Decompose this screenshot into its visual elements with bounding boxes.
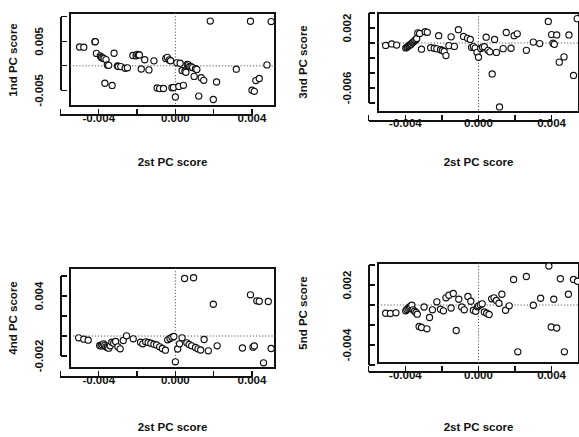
data-point bbox=[429, 307, 435, 313]
scatter-panel-bottom-right: -0.0040.0000.0040.002-0.0042st PC score5… bbox=[290, 250, 579, 437]
data-point bbox=[434, 299, 440, 305]
data-point bbox=[530, 39, 536, 45]
data-point bbox=[142, 57, 148, 63]
data-point bbox=[455, 27, 461, 33]
data-point bbox=[172, 359, 178, 365]
data-point bbox=[546, 263, 552, 269]
data-point bbox=[171, 333, 177, 339]
y-tick-label: -0.005 bbox=[33, 73, 45, 106]
data-point bbox=[456, 296, 462, 302]
data-point bbox=[483, 34, 489, 40]
plot-area: -0.0040.0000.0040.002-0.0042st PC score5… bbox=[290, 250, 579, 437]
data-point bbox=[443, 53, 449, 59]
x-tick-label: 0.000 bbox=[161, 374, 190, 386]
data-point bbox=[500, 46, 506, 52]
data-point bbox=[198, 347, 204, 353]
data-point bbox=[265, 298, 271, 304]
y-tick-label: 0.002 bbox=[341, 14, 353, 43]
data-point bbox=[247, 292, 253, 298]
scatter-panel-top-left: -0.0040.0000.0040.005-0.0052st PC score1… bbox=[0, 0, 290, 218]
data-point bbox=[268, 18, 274, 24]
x-axis-title: 2st PC score bbox=[444, 421, 514, 433]
x-tick-label: 0.004 bbox=[238, 112, 267, 124]
data-point bbox=[247, 18, 253, 24]
x-tick-label: -0.004 bbox=[389, 369, 422, 381]
data-point bbox=[561, 54, 567, 60]
data-point bbox=[450, 290, 456, 296]
data-point bbox=[565, 291, 571, 297]
data-point bbox=[491, 36, 497, 42]
y-tick-label: 0.005 bbox=[33, 26, 45, 55]
data-point bbox=[264, 62, 270, 68]
data-point bbox=[180, 82, 186, 88]
data-point bbox=[493, 49, 499, 55]
data-point bbox=[448, 34, 454, 40]
data-point bbox=[499, 291, 505, 297]
data-point bbox=[106, 62, 112, 68]
data-point bbox=[138, 66, 144, 72]
data-point bbox=[394, 42, 400, 48]
y-axis-title: 3nd PC score bbox=[297, 25, 309, 99]
data-point bbox=[177, 60, 183, 66]
data-point bbox=[196, 93, 202, 99]
data-point bbox=[201, 77, 207, 83]
x-tick-label: 0.004 bbox=[537, 117, 566, 129]
data-point bbox=[194, 66, 200, 72]
data-point bbox=[551, 41, 557, 47]
data-point bbox=[201, 336, 207, 342]
y-axis-title: 1nd PC score bbox=[7, 23, 19, 97]
x-tick-label: 0.000 bbox=[161, 112, 190, 124]
data-point bbox=[167, 58, 173, 64]
data-point bbox=[538, 295, 544, 301]
y-tick-label: -0.006 bbox=[341, 72, 353, 105]
data-point bbox=[537, 41, 543, 47]
data-point bbox=[124, 65, 130, 71]
data-point bbox=[92, 39, 98, 45]
data-point bbox=[117, 346, 123, 352]
plot-area: -0.0040.0000.0040.005-0.0052st PC score1… bbox=[0, 0, 290, 218]
data-point bbox=[251, 88, 257, 94]
data-point bbox=[566, 32, 572, 38]
x-axis-title: 2st PC score bbox=[138, 421, 208, 433]
data-point bbox=[486, 311, 492, 317]
data-point bbox=[523, 47, 529, 53]
plot-area: -0.0040.0000.0040.004-0.0022st PC score4… bbox=[0, 250, 290, 437]
x-tick-label: -0.004 bbox=[389, 117, 422, 129]
x-axis-title: 2st PC score bbox=[138, 156, 208, 168]
data-point bbox=[181, 275, 187, 281]
data-point bbox=[426, 314, 432, 320]
y-tick-label: -0.004 bbox=[341, 328, 353, 361]
data-point bbox=[487, 49, 493, 55]
data-point bbox=[151, 58, 157, 64]
x-tick-label: 0.004 bbox=[537, 369, 566, 381]
data-point bbox=[424, 326, 430, 332]
data-point bbox=[453, 327, 459, 333]
scatter-panel-bottom-left: -0.0040.0000.0040.004-0.0022st PC score4… bbox=[0, 250, 290, 437]
data-point bbox=[160, 85, 166, 91]
plot-area: -0.0040.0000.0040.002-0.0062st PC score3… bbox=[290, 0, 579, 218]
data-point bbox=[190, 275, 196, 281]
data-point bbox=[383, 42, 389, 48]
x-tick-label: 0.004 bbox=[238, 374, 267, 386]
data-point bbox=[179, 335, 185, 341]
data-point bbox=[496, 104, 502, 110]
data-point bbox=[479, 301, 485, 307]
y-axis-title: 5nd PC score bbox=[297, 276, 309, 350]
data-point bbox=[109, 82, 115, 88]
data-point bbox=[467, 36, 473, 42]
data-point bbox=[561, 349, 567, 355]
data-point bbox=[256, 75, 262, 81]
data-point bbox=[162, 347, 168, 353]
data-point bbox=[268, 345, 274, 351]
data-point bbox=[176, 341, 182, 347]
data-point bbox=[551, 296, 557, 302]
data-point bbox=[239, 345, 245, 351]
data-point bbox=[421, 304, 427, 310]
data-point bbox=[515, 349, 521, 355]
data-point bbox=[448, 305, 454, 311]
x-tick-label: -0.004 bbox=[82, 374, 115, 386]
data-point bbox=[530, 302, 536, 308]
data-point bbox=[574, 278, 579, 284]
data-point bbox=[554, 32, 560, 38]
data-point bbox=[508, 45, 514, 51]
